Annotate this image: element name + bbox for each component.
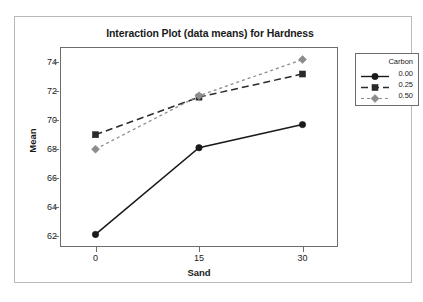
series-line — [96, 125, 303, 235]
legend-sample-square-icon — [360, 79, 390, 90]
y-tick-mark — [54, 236, 59, 237]
chart-title: Interaction Plot (data means) for Hardne… — [60, 27, 360, 39]
series-line — [96, 74, 303, 135]
legend-sample-circle-icon — [360, 68, 390, 79]
plot-series-svg — [61, 48, 337, 246]
y-tick-mark — [54, 62, 59, 63]
x-tick-mark — [303, 247, 304, 252]
legend-entry-0.50[interactable]: 0.50 — [360, 90, 414, 101]
x-tick-label: 15 — [184, 253, 214, 263]
y-axis-tick-labels: 62646668707274 — [29, 47, 57, 247]
data-point-marker — [300, 71, 306, 77]
series-0.00 — [92, 121, 305, 237]
legend-entry-0.25[interactable]: 0.25 — [360, 79, 414, 90]
x-tick-label: 0 — [81, 253, 111, 263]
x-tick-mark — [199, 247, 200, 252]
y-tick-mark — [54, 120, 59, 121]
data-point-marker — [371, 95, 379, 103]
y-tick-mark — [54, 178, 59, 179]
legend-entries: 0.000.250.50 — [360, 68, 414, 101]
y-tick-mark — [54, 149, 59, 150]
legend-sample-diamond-icon — [360, 90, 390, 101]
y-tick-mark — [54, 207, 59, 208]
data-point-marker — [92, 145, 100, 153]
data-point-marker — [92, 231, 98, 237]
legend: Carbon 0.000.250.50 — [355, 53, 419, 106]
legend-entry-0.00[interactable]: 0.00 — [360, 68, 414, 79]
x-axis-tick-labels: 01530 — [60, 253, 338, 267]
series-line — [96, 60, 303, 150]
data-point-marker — [299, 121, 305, 127]
legend-title: Carbon — [360, 57, 414, 66]
data-point-marker — [93, 132, 99, 138]
legend-label: 0.50 — [398, 91, 414, 100]
figure-border: Interaction Plot (data means) for Hardne… — [14, 16, 412, 283]
legend-label: 0.00 — [398, 69, 414, 78]
data-point-marker — [299, 56, 307, 64]
y-tick-mark — [54, 91, 59, 92]
series-0.25 — [93, 71, 306, 138]
legend-label: 0.25 — [398, 80, 414, 89]
x-tick-mark — [96, 247, 97, 252]
x-tick-label: 30 — [288, 253, 318, 263]
plot-area — [60, 47, 338, 247]
x-axis-title: Sand — [60, 267, 338, 278]
series-0.50 — [92, 56, 307, 154]
data-point-marker — [196, 145, 202, 151]
